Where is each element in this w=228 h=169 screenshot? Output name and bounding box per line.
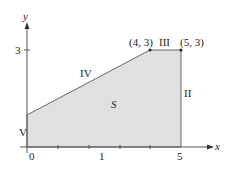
edge-label-ii: II [184, 87, 192, 99]
vertex-4-3 [149, 49, 152, 52]
region-label-s: S [111, 98, 117, 110]
edge-label-iv: IV [80, 67, 92, 79]
y-axis-arrow-icon [25, 22, 30, 29]
x-tick-label-5: 5 [177, 150, 183, 162]
vertex-label-4-3: (4, 3) [129, 36, 153, 49]
x-axis-label: x [214, 140, 220, 152]
x-tick-label-0: 0 [29, 150, 35, 162]
x-tick-label-1: 1 [99, 150, 105, 162]
y-axis-label: y [22, 10, 28, 22]
region-s [27, 50, 181, 147]
edge-label-v: V [19, 126, 27, 138]
vertex-label-5-3: (5, 3) [180, 36, 204, 49]
region-diagram: y x 3 0 1 5 (4, 3) (5, 3) III IV II V S [0, 0, 228, 169]
vertex-5-3 [180, 49, 183, 52]
edge-label-iii: III [159, 36, 170, 48]
x-axis-arrow-icon [207, 145, 214, 150]
y-tick-label-3: 3 [15, 44, 21, 56]
